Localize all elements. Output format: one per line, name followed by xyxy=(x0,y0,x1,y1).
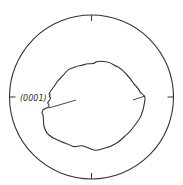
pole-line-left xyxy=(49,100,76,108)
stereogram: (0001) xyxy=(0,0,183,185)
pole-label: (0001) xyxy=(20,94,47,103)
pole-line-right xyxy=(133,96,145,100)
